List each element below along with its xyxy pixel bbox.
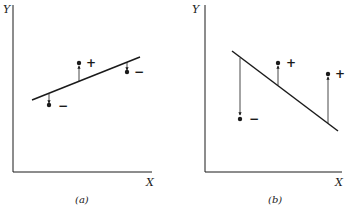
residual-sign: + — [335, 67, 345, 81]
residual-sign: + — [286, 56, 296, 70]
panel-b: Y X − + + (b) — [192, 3, 345, 205]
residual-sign: − — [134, 65, 144, 79]
regression-line — [232, 51, 338, 131]
data-point — [326, 72, 330, 76]
data-point — [125, 70, 129, 74]
data-point — [238, 117, 242, 121]
panel-a: Y X − + − (a) — [3, 3, 155, 205]
x-axis-label: X — [145, 176, 155, 189]
caption: (a) — [75, 194, 89, 205]
residual-sign: + — [86, 56, 96, 70]
data-point — [47, 103, 51, 107]
residuals-diagram: Y X − + − (a) Y X − + + (b) — [0, 0, 345, 217]
residual-sign: − — [58, 99, 68, 113]
data-point — [77, 61, 81, 65]
x-axis-label: X — [334, 176, 344, 189]
data-point — [276, 61, 280, 65]
residual-sign: − — [249, 112, 259, 126]
caption: (b) — [268, 194, 282, 205]
y-axis-label: Y — [192, 3, 201, 16]
y-axis-label: Y — [3, 3, 12, 16]
